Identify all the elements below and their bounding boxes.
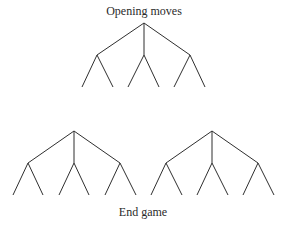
leaf-edge — [120, 163, 136, 195]
leaf-edge — [243, 163, 258, 195]
leaf-edge — [258, 163, 274, 195]
leaf-edge — [74, 163, 89, 195]
leaf-edge — [105, 163, 120, 195]
leaf-edge — [151, 163, 166, 195]
tree-canvas — [0, 0, 284, 229]
branch-edge — [74, 131, 120, 163]
leaf-edge — [144, 55, 159, 87]
leaf-edge — [166, 163, 182, 195]
branch-edge — [212, 131, 258, 163]
leaf-edge — [13, 163, 28, 195]
end-game-label: End game — [119, 205, 167, 220]
endgame-tree-left — [13, 131, 136, 195]
opening-moves-label: Opening moves — [106, 4, 182, 19]
branch-edge — [166, 131, 212, 163]
leaf-edge — [28, 163, 43, 195]
leaf-edge — [190, 55, 205, 87]
leaf-edge — [82, 55, 97, 87]
leaf-edge — [97, 55, 113, 87]
leaf-edge — [212, 163, 228, 195]
opening-tree — [82, 23, 205, 87]
leaf-edge — [197, 163, 212, 195]
game-tree-diagram: Opening moves End game — [0, 0, 284, 229]
branch-edge — [97, 23, 144, 55]
branch-edge — [144, 23, 190, 55]
branch-edge — [28, 131, 74, 163]
leaf-edge — [128, 55, 144, 87]
leaf-edge — [59, 163, 74, 195]
endgame-tree-right — [151, 131, 274, 195]
leaf-edge — [174, 55, 190, 87]
